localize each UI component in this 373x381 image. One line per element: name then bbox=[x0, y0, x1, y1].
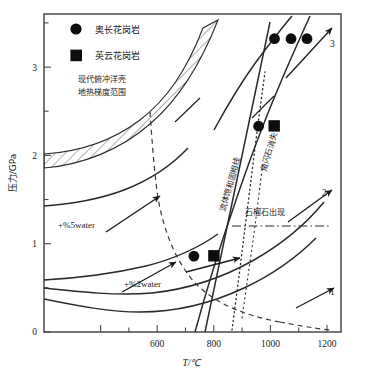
y-tick-2: 2 bbox=[32, 151, 37, 161]
y-tick-1: 1 bbox=[32, 239, 37, 249]
curve-label-2: 2 bbox=[322, 188, 327, 198]
data-point-circle bbox=[189, 251, 200, 262]
curve-label-3: 3 bbox=[330, 39, 335, 49]
data-point-circle bbox=[286, 33, 297, 44]
curve-label-1: 1 bbox=[330, 287, 335, 297]
y-tick-3: 3 bbox=[32, 63, 37, 73]
legend-marker-circle bbox=[70, 23, 81, 34]
data-point-square bbox=[208, 250, 219, 261]
annotation-water2: +%2water bbox=[124, 279, 161, 289]
legend-marker-square bbox=[70, 50, 82, 62]
x-tick-1000: 1000 bbox=[261, 339, 280, 349]
annotation-geotherm-band-line2: 地热梯度范围 bbox=[78, 87, 126, 97]
phase-diagram-figure: 600 800 1000 1200 0 1 2 3 T/℃ 压力/GPa bbox=[0, 0, 373, 381]
data-point-circle bbox=[302, 33, 313, 44]
x-tick-800: 800 bbox=[207, 339, 222, 349]
data-point-square bbox=[269, 120, 280, 131]
y-axis-label: 压力/GPa bbox=[7, 154, 18, 193]
legend-label-trondhjemite: 奥长花岗岩 bbox=[95, 24, 140, 35]
annotation-garnet-in: 石榴石出现 bbox=[245, 207, 285, 217]
y-tick-0: 0 bbox=[32, 327, 37, 337]
x-tick-600: 600 bbox=[150, 339, 165, 349]
x-axis-label: T/℃ bbox=[183, 358, 203, 368]
figure-background bbox=[0, 0, 373, 381]
data-point-circle bbox=[253, 121, 264, 132]
annotation-geotherm-band-line1: 现代俯冲洋壳 bbox=[78, 74, 126, 84]
data-point-circle bbox=[269, 33, 280, 44]
x-tick-1200: 1200 bbox=[318, 339, 337, 349]
legend-label-tonalite: 英云花岗岩 bbox=[95, 50, 140, 61]
annotation-water5: +%5water bbox=[58, 220, 95, 230]
